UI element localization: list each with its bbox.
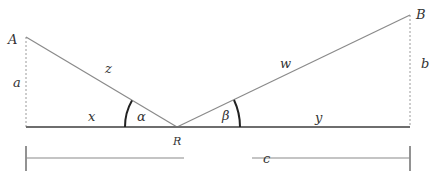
label-x: x: [88, 109, 96, 124]
label-point-a: A: [7, 32, 17, 47]
label-beta: β: [221, 108, 230, 123]
label-w: w: [280, 56, 291, 71]
label-alpha: α: [137, 109, 146, 124]
segment-z: [26, 37, 177, 127]
label-y: y: [314, 110, 323, 125]
angle-alpha-arc: [125, 101, 132, 128]
reflection-diagram: A B R a b z w x y α β c: [0, 0, 436, 179]
segment-w: [177, 15, 410, 127]
label-c: c: [263, 151, 271, 166]
label-b: b: [421, 56, 429, 71]
label-z: z: [104, 61, 112, 76]
label-a: a: [13, 75, 21, 90]
label-point-b: B: [415, 7, 426, 22]
label-point-r: R: [172, 135, 181, 148]
angle-beta-arc: [234, 100, 240, 127]
